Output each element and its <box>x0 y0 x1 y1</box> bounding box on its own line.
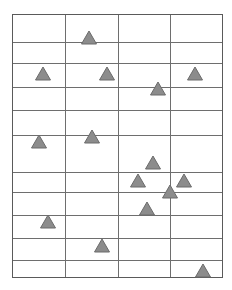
chart-canvas <box>0 0 232 290</box>
grid-scatter-plot <box>0 0 232 290</box>
